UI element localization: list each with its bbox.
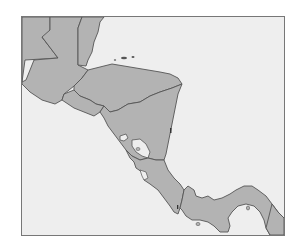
coiba-island	[196, 222, 200, 225]
map-container	[0, 0, 304, 251]
pearl-islands	[246, 206, 249, 210]
coast-mark-nicaragua	[170, 128, 172, 133]
coast-mark-costa-rica	[177, 205, 178, 209]
central-america-map	[0, 0, 304, 251]
ometepe-island	[136, 147, 140, 150]
